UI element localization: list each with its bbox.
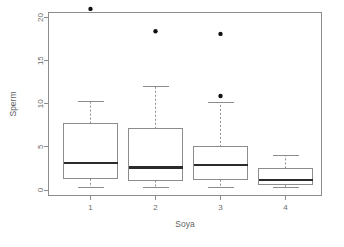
outlier-point xyxy=(218,32,222,36)
x-tick-label: 4 xyxy=(283,203,288,212)
x-axis-title: Soya xyxy=(175,219,195,229)
outlier-point xyxy=(218,94,222,98)
y-tick-label: 5 xyxy=(36,144,45,149)
plot-canvas: 05101520 1234 SoyaSperm xyxy=(0,0,344,247)
outlier-point xyxy=(153,29,157,33)
outlier-point xyxy=(88,7,92,11)
iqr-box xyxy=(64,124,118,179)
boxplot-figure: 05101520 1234 SoyaSperm xyxy=(0,0,344,247)
x-tick-label: 1 xyxy=(88,203,93,212)
figure-background xyxy=(0,0,344,247)
x-tick-label: 2 xyxy=(153,203,158,212)
iqr-box xyxy=(129,129,183,181)
iqr-box xyxy=(194,147,248,180)
iqr-box xyxy=(259,168,313,184)
x-tick-label: 3 xyxy=(218,203,223,212)
y-tick-label: 20 xyxy=(36,13,45,22)
y-tick-label: 0 xyxy=(36,187,45,192)
y-tick-label: 15 xyxy=(36,56,45,65)
y-tick-label: 10 xyxy=(36,99,45,108)
y-axis-title: Sperm xyxy=(8,91,18,116)
